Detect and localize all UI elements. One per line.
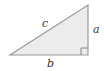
label-a: a — [93, 23, 100, 36]
label-c: c — [42, 17, 48, 30]
right-triangle-diagram: c a b — [0, 0, 104, 71]
label-b: b — [47, 57, 54, 70]
triangle-shape — [10, 5, 88, 55]
